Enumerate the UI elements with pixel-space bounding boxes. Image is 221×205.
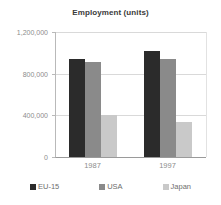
bar-eu-15-1997 bbox=[144, 51, 160, 157]
bar-group-1987 bbox=[69, 32, 117, 157]
legend-item-eu-15: EU-15 bbox=[30, 182, 59, 191]
y-axis-tick-label: 0 bbox=[0, 154, 48, 161]
bar-usa-1997 bbox=[160, 59, 176, 157]
legend-swatch-icon-usa bbox=[99, 184, 105, 190]
legend-label-eu-15: EU-15 bbox=[38, 182, 59, 191]
legend-item-usa: USA bbox=[99, 182, 122, 191]
chart-legend: EU-15 USA Japan bbox=[0, 182, 221, 191]
y-axis-tick-mark bbox=[52, 32, 55, 33]
bar-japan-1987 bbox=[101, 115, 117, 157]
bar-group-1997 bbox=[144, 32, 192, 157]
employment-bar-chart: Employment (units) EU-15 USA Japan 0400,… bbox=[0, 0, 221, 205]
y-axis-tick-mark bbox=[52, 74, 55, 75]
x-axis-tick-label-1997: 1997 bbox=[138, 161, 198, 170]
y-axis-tick-label: 400,000 bbox=[0, 112, 48, 119]
plot-right-border bbox=[206, 32, 207, 157]
bar-eu-15-1987 bbox=[69, 59, 85, 157]
legend-swatch-icon-japan bbox=[163, 184, 169, 190]
y-axis-tick-label: 800,000 bbox=[0, 70, 48, 77]
legend-label-japan: Japan bbox=[171, 182, 191, 191]
legend-item-japan: Japan bbox=[163, 182, 191, 191]
chart-title: Employment (units) bbox=[0, 8, 221, 17]
legend-label-usa: USA bbox=[107, 182, 122, 191]
y-axis-tick-mark bbox=[52, 157, 55, 158]
bar-japan-1997 bbox=[176, 122, 192, 157]
legend-swatch-icon-eu-15 bbox=[30, 184, 36, 190]
x-axis-tick-label-1987: 1987 bbox=[63, 161, 123, 170]
bar-usa-1987 bbox=[85, 62, 101, 157]
y-axis-tick-mark bbox=[52, 115, 55, 116]
y-axis-tick-label: 1,200,000 bbox=[0, 29, 48, 36]
